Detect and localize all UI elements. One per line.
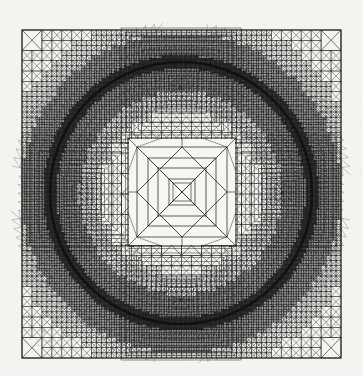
figure-root: adaptive-triangular-mesh Square domain b… <box>0 0 363 376</box>
adaptive-mesh-figure <box>0 0 363 376</box>
